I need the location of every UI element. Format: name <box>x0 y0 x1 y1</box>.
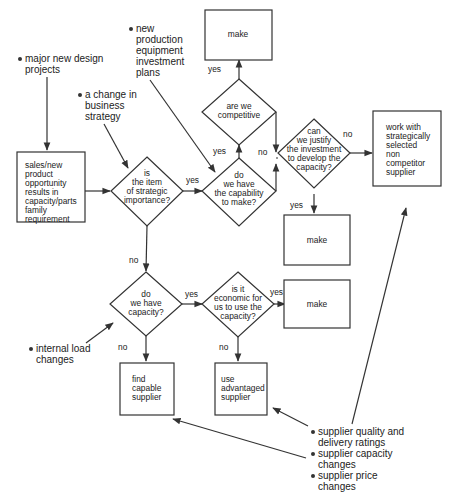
decision-capability: dowe havethe capabilityto make? <box>202 158 276 226</box>
bullet-icon <box>311 452 315 456</box>
decision-have-capacity: dowe havecapacity? <box>110 272 182 336</box>
decision-justify-investment: canwe justifythe investmentto develop th… <box>278 119 350 188</box>
svg-text:make: make <box>307 299 328 309</box>
input-production-equipment: newproductionequipmentinvestmentplans <box>129 23 185 78</box>
node-make-low: make <box>284 280 350 328</box>
label-economic-no: no <box>219 342 229 352</box>
input-major-design: major new designprojects <box>18 53 103 75</box>
label-capability-yes: yes <box>213 146 226 156</box>
edge-supplier-to-workwith <box>352 208 406 424</box>
svg-text:newproductionequipmentinvestme: newproductionequipmentinvestmentplans <box>136 23 185 78</box>
make-or-buy-flowchart: yes no yes no yes yes no yes no yes no s… <box>0 0 453 499</box>
label-justify-yes: yes <box>290 200 303 210</box>
node-make-top: make <box>205 10 272 60</box>
edge-equipment-to-capability <box>150 80 215 172</box>
label-justify-no: no <box>343 129 353 139</box>
label-capacity-no: no <box>118 342 128 352</box>
edge-supplier-to-use <box>273 408 308 426</box>
node-make-mid: make <box>284 215 350 265</box>
label-economic-yes: yes <box>270 287 283 297</box>
label-strategic-no: no <box>129 255 139 265</box>
svg-text:supplier pricechanges: supplier pricechanges <box>318 470 378 492</box>
svg-text:major new designprojects: major new designprojects <box>25 53 103 75</box>
label-strategic-yes: yes <box>186 175 199 185</box>
svg-text:supplier capacitychanges: supplier capacitychanges <box>318 448 392 470</box>
input-internal-load: internal loadchanges <box>29 343 90 365</box>
edge-supplier-to-find <box>173 419 306 458</box>
edge-strategic-to-have-capacity <box>146 226 147 271</box>
bullet-icon <box>129 27 133 31</box>
node-use-supplier: useadvantagedsupplier <box>215 363 267 415</box>
input-supplier-factors: supplier quality anddelivery ratings sup… <box>311 426 404 492</box>
label-competitive-yes: yes <box>208 64 221 74</box>
bullet-icon <box>78 93 82 97</box>
label-capacity-yes: yes <box>185 289 198 299</box>
svg-text:supplier quality anddelivery r: supplier quality anddelivery ratings <box>318 426 404 448</box>
node-sales: sales/newproductopportunityresults incap… <box>17 152 85 224</box>
decision-competitive: are wecompetitive <box>202 79 276 145</box>
input-business-strategy: a change inbusinessstrategy <box>78 89 137 122</box>
decision-economic: is iteconomic forus to use thecapacity? <box>202 272 274 337</box>
bullet-icon <box>18 57 22 61</box>
svg-text:make: make <box>228 29 249 39</box>
edge-internal-load-to-capacity <box>86 323 113 343</box>
node-find-supplier: findcapablesupplier <box>120 363 174 415</box>
bullet-icon <box>311 430 315 434</box>
decision-strategic-importance: isthe itemof strategicimportance? <box>111 157 183 226</box>
svg-text:internal loadchanges: internal loadchanges <box>36 343 90 365</box>
node-work-with-supplier: work withstrategicallyselectednoncompeti… <box>373 111 441 186</box>
bullet-icon <box>29 347 33 351</box>
svg-text:make: make <box>307 235 328 245</box>
label-capability-no: no <box>258 147 268 157</box>
svg-text:a change inbusinessstrategy: a change inbusinessstrategy <box>85 89 137 122</box>
edge-strategy-to-strategic <box>104 124 128 168</box>
bullet-icon <box>311 474 315 478</box>
